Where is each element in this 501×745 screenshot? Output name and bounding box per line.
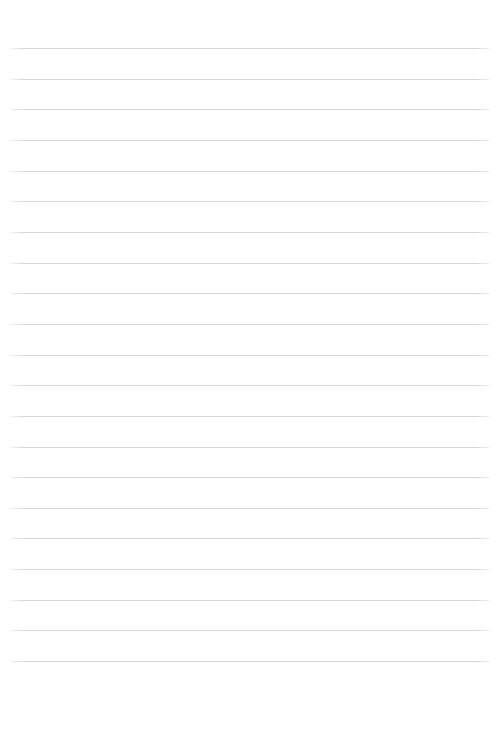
rule-line <box>11 447 490 448</box>
rule-line <box>11 109 490 110</box>
rule-line <box>11 630 490 631</box>
rule-line <box>11 293 490 294</box>
rule-line <box>11 263 490 264</box>
rule-line <box>11 140 490 141</box>
rule-line <box>11 48 490 49</box>
rule-line <box>11 477 490 478</box>
rule-line <box>11 232 490 233</box>
rule-line <box>11 355 490 356</box>
rule-line <box>11 661 490 662</box>
rule-line <box>11 508 490 509</box>
rule-line <box>11 385 490 386</box>
rule-line <box>11 171 490 172</box>
rule-line <box>11 569 490 570</box>
lined-paper-page <box>0 0 501 745</box>
rule-line <box>11 79 490 80</box>
rule-line <box>11 201 490 202</box>
ruled-lines-layer <box>0 0 501 745</box>
rule-line <box>11 538 490 539</box>
rule-line <box>11 324 490 325</box>
rule-line <box>11 416 490 417</box>
rule-line <box>11 600 490 601</box>
